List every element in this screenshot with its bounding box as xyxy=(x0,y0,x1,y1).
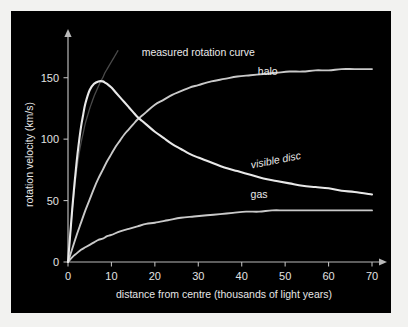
annotation-measured-rotation-curve: measured rotation curve xyxy=(142,46,255,58)
annotation-halo: halo xyxy=(258,65,278,77)
x-tick-label-40: 40 xyxy=(236,270,248,282)
x-tick-label-70: 70 xyxy=(366,270,378,282)
x-tick-label-0: 0 xyxy=(65,270,71,282)
plot-panel: 050100150010203040506070distance from ce… xyxy=(11,11,391,313)
x-axis-title: distance from centre (thousands of light… xyxy=(116,288,332,300)
x-tick-label-20: 20 xyxy=(149,270,161,282)
figure-container: 050100150010203040506070distance from ce… xyxy=(0,0,408,327)
x-axis-arrow xyxy=(379,258,387,265)
x-tick-label-10: 10 xyxy=(105,270,117,282)
annotation-gas: gas xyxy=(251,188,268,200)
y-tick-label-50: 50 xyxy=(47,195,59,207)
y-tick-label-150: 150 xyxy=(41,72,59,84)
x-tick-label-50: 50 xyxy=(279,270,291,282)
y-tick-label-0: 0 xyxy=(53,256,59,268)
annotation-visible-disc: visible disc xyxy=(250,149,303,171)
rotation-curve-chart: 050100150010203040506070distance from ce… xyxy=(11,11,391,313)
x-tick-label-30: 30 xyxy=(192,270,204,282)
y-axis-arrow xyxy=(64,29,71,37)
curve-gas xyxy=(68,210,372,262)
x-tick-label-60: 60 xyxy=(322,270,334,282)
y-tick-label-100: 100 xyxy=(41,133,59,145)
y-axis-title: rotation velocity (km/s) xyxy=(23,102,35,207)
